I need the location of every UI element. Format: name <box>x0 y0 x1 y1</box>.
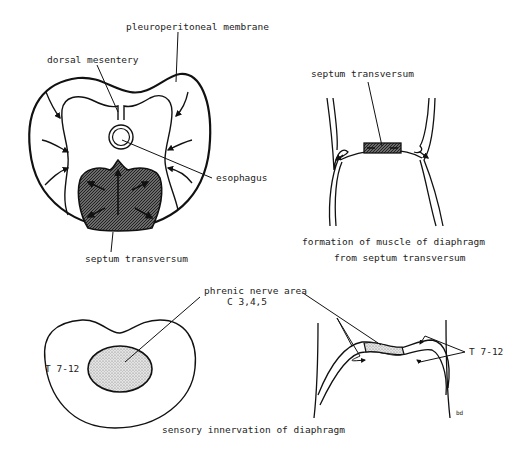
label-phrenic-segments: C 3,4,5 <box>227 296 267 307</box>
label-thoracic-left: T 7-12 <box>45 363 79 374</box>
label-esophagus: esophagus <box>216 172 267 183</box>
label-septum-transversum-2: septum transversum <box>311 68 414 79</box>
muscle-formation-panel: septum transversum formation of muscle o… <box>302 68 485 263</box>
phrenic-region-side <box>364 342 404 354</box>
label-septum-transversum: septum transversum <box>85 253 188 264</box>
phrenic-nerve-area <box>88 346 152 392</box>
label-pleuroperitoneal-membrane: pleuroperitoneal membrane <box>126 21 269 32</box>
diaphragm-diagram: pleuroperitoneal membrane dorsal mesente… <box>0 0 526 452</box>
caption-formation-line1: formation of muscle of diaphragm <box>302 236 485 247</box>
artist-signature: bd <box>456 409 464 416</box>
caption-formation-line2: from septum transversum <box>334 252 466 263</box>
diaphragm-dome-side-view <box>314 320 450 418</box>
label-thoracic-right: T 7-12 <box>469 346 503 357</box>
caption-sensory-innervation: sensory innervation of diaphragm <box>162 424 345 435</box>
sensory-innervation-panel: T 7-12 phrenic nerve area C 3,4,5 T 7-12… <box>45 285 504 435</box>
label-phrenic-nerve-area: phrenic nerve area <box>204 285 307 296</box>
septum-leader-line <box>368 82 382 146</box>
esophagus-inner-ring <box>113 129 130 146</box>
septum-transversum-region <box>78 160 161 231</box>
embryo-cross-section-panel: pleuroperitoneal membrane dorsal mesente… <box>29 21 269 264</box>
phrenic-leader-left <box>125 297 200 362</box>
label-dorsal-mesentery: dorsal mesentery <box>47 54 139 65</box>
body-wall-lines <box>327 98 443 226</box>
